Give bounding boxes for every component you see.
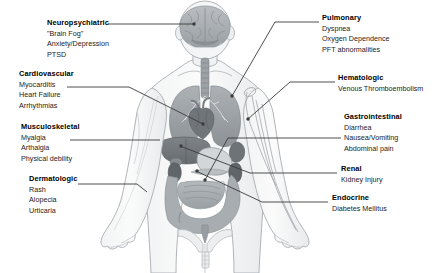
- leader-dot-heart: [201, 122, 204, 125]
- body-figure: [101, 1, 309, 273]
- label-musculoskeletal-title: Musculoskeletal: [21, 122, 80, 133]
- leader-dot-pancreas: [195, 169, 198, 172]
- label-endocrine-item-0: Diabetes Mellitus: [332, 204, 387, 215]
- label-neuropsychiatric-item-2: PTSD: [47, 50, 109, 61]
- label-pulmonary-item-1: Oxygen Dependence: [322, 34, 390, 45]
- label-neuropsychiatric: Neuropsychiatric "Brain Fog" Anxiety/Dep…: [47, 18, 109, 60]
- label-gastrointestinal-item-2: Abdominal pain: [344, 144, 402, 155]
- label-cardiovascular-item-1: Heart Failure: [19, 90, 74, 101]
- label-renal-title: Renal: [341, 164, 383, 175]
- label-renal-item-0: Kidney Injury: [341, 175, 383, 186]
- label-neuropsychiatric-item-0: "Brain Fog": [47, 29, 109, 40]
- label-hematologic: Hematologic Venous Thromboembolism: [338, 73, 423, 94]
- label-hematologic-item-0: Venous Thromboembolism: [338, 84, 423, 95]
- label-dermatologic-item-0: Rash: [29, 185, 77, 196]
- label-gastrointestinal: Gastrointestinal Diarrhea Nausea/Vomitin…: [344, 112, 402, 154]
- label-dermatologic: Dermatologic Rash Alopecia Urticaria: [29, 174, 77, 216]
- label-pulmonary-item-2: PFT abnormalities: [322, 45, 390, 56]
- label-renal: Renal Kidney Injury: [341, 164, 383, 185]
- label-neuropsychiatric-title: Neuropsychiatric: [47, 18, 109, 29]
- leader-dot-gi: [203, 178, 206, 181]
- label-dermatologic-item-2: Urticaria: [29, 206, 77, 217]
- trachea-organ: [201, 58, 209, 98]
- label-cardiovascular-item-0: Myocarditis: [19, 80, 74, 91]
- label-hematologic-title: Hematologic: [338, 73, 423, 84]
- label-gastrointestinal-item-1: Nausea/Vomiting: [344, 133, 402, 144]
- leader-dot-lung: [230, 94, 233, 97]
- label-cardiovascular-item-2: Arrhythmias: [19, 101, 74, 112]
- label-musculoskeletal-item-0: Myalgia: [21, 133, 80, 144]
- leader-dot-brain: [192, 22, 195, 25]
- label-endocrine: Endocrine Diabetes Mellitus: [332, 193, 387, 214]
- leader-dot-kidney: [179, 144, 182, 147]
- label-neuropsychiatric-item-1: Anxiety/Depression: [47, 39, 109, 50]
- label-pulmonary-title: Pulmonary: [322, 13, 390, 24]
- brain-organ: [180, 6, 230, 47]
- label-cardiovascular: Cardiovascular Myocarditis Heart Failure…: [19, 69, 74, 111]
- label-musculoskeletal-item-2: Physical debility: [21, 154, 80, 165]
- label-cardiovascular-title: Cardiovascular: [19, 69, 74, 80]
- label-musculoskeletal-item-1: Arthalgia: [21, 143, 80, 154]
- label-gastrointestinal-item-0: Diarrhea: [344, 123, 402, 134]
- label-pulmonary-item-0: Dyspnea: [322, 24, 390, 35]
- leader-dot-vein: [246, 117, 249, 120]
- label-musculoskeletal: Musculoskeletal Myalgia Arthalgia Physic…: [21, 122, 80, 164]
- label-gastrointestinal-title: Gastrointestinal: [344, 112, 402, 123]
- label-dermatologic-title: Dermatologic: [29, 174, 77, 185]
- label-pulmonary: Pulmonary Dyspnea Oxygen Dependence PFT …: [322, 13, 390, 55]
- label-dermatologic-item-1: Alopecia: [29, 195, 77, 206]
- label-endocrine-title: Endocrine: [332, 193, 387, 204]
- spleen-organ: [229, 142, 244, 162]
